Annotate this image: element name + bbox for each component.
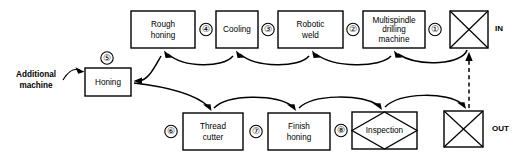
edge-robotic-to-cooling (236, 51, 309, 65)
finish-honing-box[interactable] (268, 113, 330, 150)
edge-multispindle-to-robotic-arrowhead (312, 51, 321, 59)
edge-cooling-to-rough-arrowhead (164, 51, 173, 59)
node-rough-honing[interactable]: Rough honing (131, 11, 195, 48)
node-finish-honing[interactable]: Finish honing (268, 113, 330, 150)
additional-machine-label-line1: Additional (16, 70, 56, 79)
multispindle-label-line1: Multispindle (372, 16, 416, 25)
step-number-cooling: ③ (262, 23, 274, 35)
node-cooling[interactable]: Cooling (216, 11, 258, 48)
step-number-finish-honing: ⑦ (250, 125, 262, 137)
step-label-3: ③ (264, 24, 272, 34)
rough-honing-label-line2: honing (151, 31, 176, 40)
edge-thread-to-finish-arrowhead (287, 104, 296, 111)
rough-honing-label-line1: Rough (151, 20, 176, 29)
edge-thread-cutter-to-finish-honing (214, 97, 296, 111)
robotic-weld-box[interactable] (278, 11, 343, 48)
step-label-4: ④ (202, 24, 210, 34)
multispindle-label-line2: drilling (382, 25, 406, 34)
additional-machine-label-line2: machine (19, 81, 53, 90)
rough-honing-box[interactable] (131, 11, 195, 48)
edge-finish-to-inspection-path (299, 97, 378, 108)
edge-honing-to-thread-cutter (134, 83, 212, 111)
out-label: OUT (492, 124, 509, 133)
edge-in-to-multispindle-path (398, 50, 467, 63)
edge-inspection-to-out-arrowhead (457, 102, 466, 109)
edge-robotic-to-cooling-path (240, 54, 309, 65)
edge-honing-to-thread-arrowhead (203, 104, 212, 111)
edge-out-to-in-arrowhead (465, 52, 472, 61)
in-label: IN (495, 24, 503, 33)
thread-cutter-label-line2: cutter (203, 133, 224, 142)
edge-multispindle-to-robotic (312, 51, 391, 65)
inspection-label: Inspection (366, 126, 404, 135)
edge-cooling-to-rough-honing (164, 51, 233, 65)
cooling-label: Cooling (223, 25, 251, 34)
edge-finish-honing-to-inspection (299, 97, 382, 110)
edge-thread-to-finish-path (214, 97, 292, 108)
finish-honing-label-line1: Finish (288, 122, 310, 131)
thread-cutter-label-line1: Thread (200, 122, 226, 131)
edge-finish-to-inspection-arrowhead (373, 103, 382, 110)
edge-multispindle-to-robotic-path (316, 54, 391, 65)
step-label-1: ① (431, 24, 439, 34)
edge-robotic-to-cooling-arrowhead (236, 51, 245, 59)
step-number-thread-cutter: ⑥ (165, 125, 177, 137)
edge-inspection-to-out-path (385, 95, 462, 107)
step-number-robotic-weld: ② (347, 23, 359, 35)
step-label-8: ⑧ (337, 125, 345, 135)
edge-in-to-multispindle-arrowhead (394, 51, 403, 58)
node-inspection[interactable]: Inspection (352, 112, 417, 149)
step-label-2: ② (349, 24, 357, 34)
edge-out-to-in-dashed (465, 52, 472, 108)
step-number-honing: ⑤ (101, 52, 113, 64)
finish-honing-label-line2: honing (287, 133, 312, 142)
multispindle-label-line3: machine (379, 35, 410, 44)
step-number-rough-honing: ④ (200, 23, 212, 35)
step-label-7: ⑦ (252, 126, 260, 136)
step-label-6: ⑥ (167, 126, 175, 136)
edge-rough-to-honing-path (139, 56, 161, 81)
robotic-weld-label-line1: Robotic (297, 20, 325, 29)
flow-diagram-canvas: Rough honing ④ Cooling ③ Robotic weld ② (0, 0, 524, 162)
process-flow-diagram: Rough honing ④ Cooling ③ Robotic weld ② (0, 0, 524, 162)
edge-inspection-to-out (385, 95, 466, 109)
step-number-inspection: ⑧ (335, 124, 347, 136)
node-thread-cutter[interactable]: Thread cutter (183, 113, 243, 150)
step-label-5: ⑤ (103, 53, 111, 63)
edge-honing-to-thread-path (134, 83, 208, 106)
robotic-weld-label-line2: weld (301, 31, 319, 40)
node-in-buffer[interactable] (450, 11, 488, 48)
edge-rough-honing-to-honing (134, 56, 162, 84)
edge-in-to-multispindle (394, 50, 467, 63)
edge-additional-to-honing-arrowhead (76, 67, 85, 74)
node-robotic-weld[interactable]: Robotic weld (278, 11, 343, 48)
edge-additional-machine-to-honing (63, 67, 85, 80)
node-multispindle-drilling-machine[interactable]: Multispindle drilling machine (363, 11, 425, 48)
step-number-multispindle: ① (429, 23, 441, 35)
node-honing[interactable]: Honing (85, 68, 131, 96)
thread-cutter-box[interactable] (183, 113, 243, 150)
node-out-buffer[interactable] (444, 111, 483, 147)
honing-label: Honing (95, 78, 121, 87)
edge-cooling-to-rough-path (168, 54, 233, 65)
